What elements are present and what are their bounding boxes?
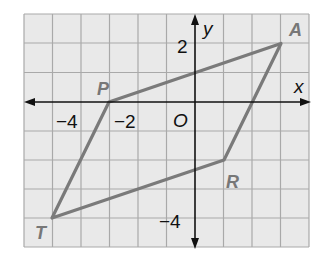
y-axis-label: y (201, 18, 214, 39)
x-axis-label: x (293, 76, 305, 97)
vertex-label-A: A (288, 20, 302, 40)
tick-label-y-neg4: −4 (159, 211, 181, 232)
vertex-label-P: P (97, 79, 110, 99)
tick-label-y-2: 2 (177, 36, 188, 57)
tick-label-x-neg4: −4 (56, 111, 78, 132)
origin-label: O (173, 110, 188, 131)
coordinate-plane: y x O −4 −2 2 −4 A R T P (0, 0, 323, 254)
tick-label-x-neg2: −2 (114, 111, 136, 132)
vertex-label-R: R (226, 172, 239, 192)
